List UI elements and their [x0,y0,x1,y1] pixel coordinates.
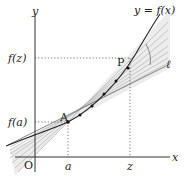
y-axis-label: y [31,5,39,18]
tick-fz: f(z) [7,52,26,65]
point-A-label: A [59,111,69,124]
tangent-line [8,66,166,145]
tangent-label: ℓ [166,58,171,71]
point-P [126,66,129,69]
derivative-diagram: y x O y = f(x) ℓ A P a z f(a) f(z) [0,0,184,176]
curve-label: y = f(x) [133,4,175,17]
tick-a: a [65,160,72,173]
tick-z: z [126,160,133,173]
x-axis-label: x [172,151,179,164]
tick-fa: f(a) [7,116,27,129]
origin-label: O [24,159,33,172]
point-P-label: P [117,56,125,69]
